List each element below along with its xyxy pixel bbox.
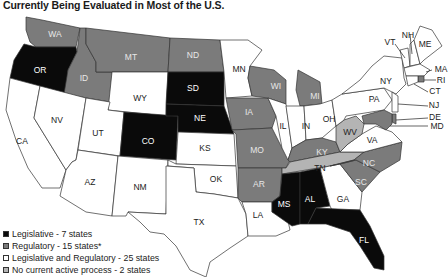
svg-text:WA: WA bbox=[48, 29, 62, 39]
legend-swatch-no-process bbox=[3, 267, 9, 273]
svg-text:CO: CO bbox=[142, 136, 155, 146]
svg-text:PA: PA bbox=[369, 94, 380, 104]
svg-text:KS: KS bbox=[199, 143, 211, 153]
state-de bbox=[392, 114, 396, 124]
svg-text:NY: NY bbox=[380, 76, 392, 86]
state-ny bbox=[342, 56, 406, 94]
svg-text:WI: WI bbox=[271, 81, 281, 91]
svg-text:AR: AR bbox=[253, 179, 265, 189]
svg-text:OH: OH bbox=[323, 114, 336, 124]
svg-text:GA: GA bbox=[337, 194, 350, 204]
svg-text:WV: WV bbox=[343, 127, 357, 137]
legend-item-regulatory: Regulatory - 15 states* bbox=[3, 240, 159, 252]
legend-swatch-legislative bbox=[3, 231, 9, 237]
legend-swatch-legislative-regulatory bbox=[3, 255, 9, 261]
svg-text:TX: TX bbox=[194, 217, 205, 227]
svg-text:RI: RI bbox=[437, 75, 446, 85]
svg-text:AL: AL bbox=[305, 194, 316, 204]
svg-text:UT: UT bbox=[92, 128, 103, 138]
legend-swatch-regulatory bbox=[3, 243, 9, 249]
svg-text:IN: IN bbox=[302, 121, 311, 131]
svg-text:NH: NH bbox=[402, 30, 414, 40]
state-mt bbox=[86, 28, 170, 72]
state-fl bbox=[308, 208, 384, 270]
legend-item-legislative: Legislative - 7 states bbox=[3, 228, 159, 240]
svg-text:WY: WY bbox=[133, 93, 147, 103]
svg-text:NV: NV bbox=[51, 115, 63, 125]
svg-text:MS: MS bbox=[278, 199, 291, 209]
svg-text:VT: VT bbox=[385, 37, 396, 47]
legend-label: No current active process - 2 states bbox=[12, 264, 150, 276]
svg-text:ID: ID bbox=[80, 73, 89, 83]
legend-item-legislative-regulatory: Legislative and Regulatory - 25 states bbox=[3, 252, 159, 264]
svg-text:AZ: AZ bbox=[85, 177, 96, 187]
svg-text:MO: MO bbox=[250, 145, 264, 155]
svg-text:VA: VA bbox=[367, 135, 378, 145]
svg-text:CA: CA bbox=[16, 136, 28, 146]
legend-label: Legislative - 7 states bbox=[12, 228, 92, 240]
legend-label: Regulatory - 15 states* bbox=[12, 240, 101, 252]
svg-text:MD: MD bbox=[430, 121, 443, 131]
svg-text:MT: MT bbox=[125, 52, 137, 62]
svg-text:FL: FL bbox=[359, 235, 369, 245]
svg-text:SD: SD bbox=[187, 83, 199, 93]
svg-text:KY: KY bbox=[316, 147, 328, 157]
state-ri bbox=[418, 76, 424, 82]
svg-text:CT: CT bbox=[429, 86, 440, 96]
svg-text:MN: MN bbox=[232, 64, 245, 74]
svg-text:NE: NE bbox=[194, 113, 206, 123]
svg-text:IA: IA bbox=[245, 107, 253, 117]
svg-text:IL: IL bbox=[279, 121, 286, 131]
svg-text:ME: ME bbox=[419, 39, 432, 49]
svg-text:TN: TN bbox=[314, 163, 325, 173]
svg-text:NJ: NJ bbox=[429, 100, 439, 110]
state-ct bbox=[406, 76, 418, 86]
svg-text:OR: OR bbox=[34, 65, 47, 75]
legend-label: Legislative and Regulatory - 25 states bbox=[12, 252, 159, 264]
svg-text:OK: OK bbox=[210, 174, 223, 184]
svg-text:ND: ND bbox=[187, 50, 199, 60]
state-nj bbox=[392, 92, 398, 112]
svg-text:SC: SC bbox=[355, 177, 367, 187]
svg-text:LA: LA bbox=[253, 210, 264, 220]
legend-item-no-process: No current active process - 2 states bbox=[3, 264, 159, 276]
map-legend: Legislative - 7 states Regulatory - 15 s… bbox=[3, 228, 159, 276]
svg-text:NM: NM bbox=[133, 182, 146, 192]
svg-text:NC: NC bbox=[363, 158, 375, 168]
svg-text:MI: MI bbox=[310, 91, 319, 101]
svg-text:MA: MA bbox=[435, 64, 448, 74]
